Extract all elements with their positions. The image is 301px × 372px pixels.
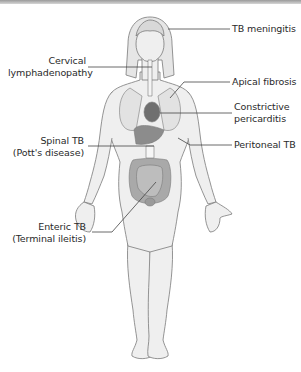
label-cervical-lymphadenopathy: Cervical lymphadenopathy (8, 55, 86, 79)
left-arm (84, 92, 112, 204)
label-spinal-line1: Spinal TB (6, 135, 84, 147)
label-peritoneal-tb: Peritoneal TB (234, 139, 296, 151)
right-arm (188, 92, 216, 204)
label-spinal-tb: Spinal TB (Pott's disease) (6, 135, 84, 159)
label-enteric-line1: Enteric TB (4, 221, 86, 233)
label-cervical-line1: Cervical (8, 55, 86, 67)
right-hand (205, 202, 232, 232)
label-enteric-line2: (Terminal ileitis) (4, 233, 86, 245)
label-spinal-line2: (Pott's disease) (6, 147, 84, 159)
right-leg (148, 242, 173, 359)
spine (146, 146, 154, 158)
label-apical-text: Apical fibrosis (232, 76, 296, 88)
label-apical-fibrosis: Apical fibrosis (232, 76, 296, 88)
trachea (148, 60, 152, 96)
bladder (145, 198, 155, 206)
label-peritoneal-text: Peritoneal TB (234, 139, 296, 151)
heart (144, 102, 160, 122)
label-tb-meningitis-text: TB meningitis (232, 23, 296, 35)
label-enteric-tb: Enteric TB (Terminal ileitis) (4, 221, 86, 245)
label-cervical-line2: lymphadenopathy (8, 67, 86, 79)
label-constrictive-line2: pericarditis (234, 113, 290, 125)
label-tb-meningitis: TB meningitis (232, 23, 296, 35)
label-constrictive-line1: Constrictive (234, 101, 290, 113)
label-constrictive-pericarditis: Constrictive pericarditis (234, 101, 290, 125)
